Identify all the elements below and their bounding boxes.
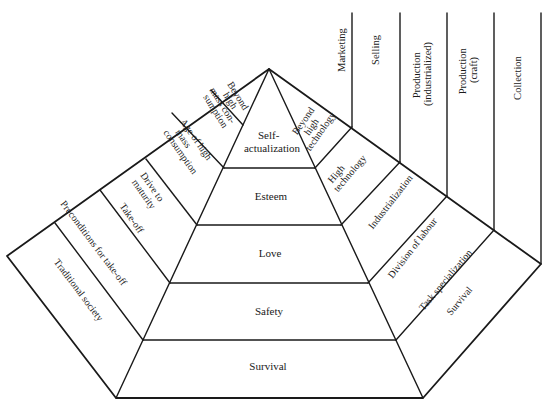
- level-love: Love: [259, 247, 282, 259]
- left-wing-labels: Beyond high mass con- sumption Age of hi…: [52, 76, 255, 323]
- pyramid-diagram: Marketing Selling Production (industrial…: [0, 0, 549, 407]
- column-label-selling: Selling: [370, 34, 381, 65]
- stage-division-of-labour: Division of labour: [385, 215, 439, 280]
- stage-traditional-society: Traditional society: [52, 257, 106, 323]
- level-esteem: Esteem: [255, 190, 288, 202]
- column-label-marketing: Marketing: [336, 27, 347, 71]
- column-labels: Marketing Selling Production (industrial…: [336, 27, 523, 106]
- stage-age-of-high-mass-consumption: Age of high mass consumption: [161, 116, 216, 176]
- right-wing-dividers: [315, 127, 494, 340]
- stage-industrialization: Industrialization: [366, 173, 415, 231]
- stage-task-specialization: Task specialization: [417, 247, 474, 312]
- column-label-production-craft: Production (craft): [457, 46, 480, 95]
- stage-survival-right: Survival: [444, 284, 474, 317]
- column-label-collection: Collection: [512, 55, 523, 99]
- stage-high-technology: High technology: [324, 146, 369, 194]
- level-survival: Survival: [249, 360, 286, 372]
- column-label-production-industrialized: Production (industrialized): [411, 41, 434, 106]
- pyramid-labels: Self- actualization Esteem Love Safety S…: [244, 129, 301, 372]
- stage-drive-to-maturity: Drive to maturity: [129, 170, 167, 212]
- level-safety: Safety: [255, 305, 284, 317]
